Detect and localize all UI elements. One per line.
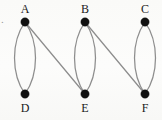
vertex-a <box>21 18 29 26</box>
vertex-label-c: C <box>137 3 153 15</box>
edge-b-f <box>85 22 145 94</box>
vertex-label-b: B <box>77 3 93 15</box>
vertex-e <box>81 90 89 98</box>
corner-mark-text: . <box>1 14 4 25</box>
vertex-b <box>81 18 89 26</box>
vertex-label-e: E <box>77 102 93 114</box>
vertex-label-f: F <box>137 102 153 114</box>
edge-group <box>15 22 156 94</box>
vertex-f <box>141 90 149 98</box>
edge-c-f-right <box>145 22 156 94</box>
vertex-d <box>21 90 29 98</box>
edge-a-d-left <box>15 22 26 94</box>
vertex-label-d: D <box>17 102 33 114</box>
vertex-group <box>21 18 149 98</box>
vertex-c <box>141 18 149 26</box>
edge-a-e <box>25 22 85 94</box>
graph-figure: . A B C D E F <box>0 0 162 120</box>
vertex-label-a: A <box>17 3 33 15</box>
